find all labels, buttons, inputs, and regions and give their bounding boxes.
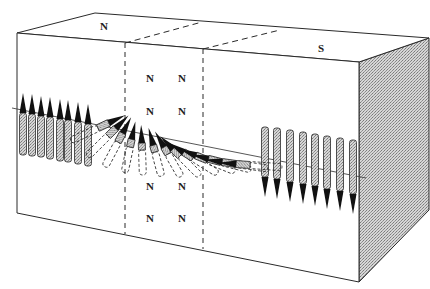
wall-pole-label: N bbox=[178, 180, 186, 192]
wall-pole-label: N bbox=[146, 105, 154, 117]
south-pole-label: S bbox=[318, 42, 324, 54]
wall-pole-label: N bbox=[178, 105, 186, 117]
north-pole-label: N bbox=[100, 20, 108, 32]
side-face bbox=[359, 38, 429, 282]
wall-pole-label: N bbox=[146, 72, 154, 84]
wall-pole-label: N bbox=[178, 72, 186, 84]
wall-pole-label: N bbox=[178, 212, 186, 224]
wall-pole-label: N bbox=[146, 180, 154, 192]
domain-wall-diagram: N S NNNNNNNN bbox=[0, 0, 430, 289]
wall-pole-label: N bbox=[146, 212, 154, 224]
